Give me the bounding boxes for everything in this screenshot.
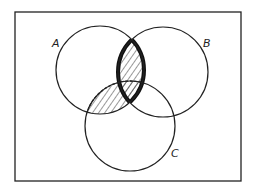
set-b-label: B [203,37,211,50]
venn-diagram: A B C [0,0,256,192]
set-a-label: A [51,37,60,50]
set-c-label: C [171,147,179,160]
